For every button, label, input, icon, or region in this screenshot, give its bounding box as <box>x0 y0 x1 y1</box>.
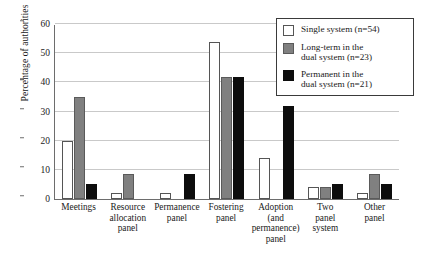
bar-chart: Percentage of authorities 0102030405060 … <box>0 0 422 262</box>
legend-item: Long-term in thedual system (n=23) <box>283 42 408 63</box>
bar-longterm <box>221 77 232 200</box>
x-axis-tick-label: Resourceallocationpanel <box>103 202 152 244</box>
y-axis-tick-label: 30 <box>24 108 50 118</box>
x-axis-tick-label: Otherpanel <box>350 202 399 244</box>
bar-permanent <box>381 184 392 199</box>
bar-single <box>308 187 319 199</box>
legend-label: Long-term in thedual system (n=23) <box>301 42 372 63</box>
bar-longterm <box>74 97 85 199</box>
x-axis-tick-label: Twopanelsystem <box>301 202 350 244</box>
bar-permanent <box>86 184 97 199</box>
bar-single <box>357 193 368 199</box>
y-axis-tick-mark <box>20 49 24 50</box>
y-axis-tick-mark <box>20 108 24 109</box>
bar-permanent <box>184 174 195 199</box>
legend: Single system (n=54)Long-term in thedual… <box>276 18 414 96</box>
legend-swatch-longterm <box>283 43 294 54</box>
bar-group <box>104 25 153 199</box>
bar-group <box>153 25 202 199</box>
legend-swatch-permanent <box>283 70 294 81</box>
bar-single <box>209 42 220 200</box>
bar-single <box>62 141 73 199</box>
y-axis-tick-label: 0 <box>24 195 50 205</box>
legend-item: Single system (n=54) <box>283 24 408 36</box>
bar-single <box>259 158 270 199</box>
y-axis-tick-mark <box>20 195 24 196</box>
bar-single <box>111 193 122 199</box>
bar-permanent <box>283 106 294 199</box>
y-axis-tick-label: 50 <box>24 49 50 59</box>
legend-label: Permanent in thedual system (n=21) <box>301 69 372 90</box>
legend-item: Permanent in thedual system (n=21) <box>283 69 408 90</box>
y-axis-tick-label: 60 <box>24 20 50 30</box>
x-axis-tick-label: Adoption (andpermanence)panel <box>251 202 301 244</box>
y-axis-tick-label: 20 <box>24 137 50 147</box>
bar-group <box>55 25 104 199</box>
bar-single <box>160 193 171 199</box>
bar-longterm <box>369 174 380 199</box>
x-axis-tick-labels: MeetingsResourceallocationpanelPermanenc… <box>54 202 399 244</box>
y-axis-tick-mark <box>20 79 24 80</box>
bar-longterm <box>123 174 134 199</box>
y-axis-tick-mark <box>20 20 24 21</box>
bar-permanent <box>332 184 343 199</box>
y-axis-tick-label: 40 <box>24 79 50 89</box>
y-axis-tick-mark <box>20 166 24 167</box>
bar-permanent <box>233 77 244 200</box>
legend-swatch-single <box>283 25 294 36</box>
bar-group <box>202 25 251 199</box>
x-axis-tick-label: Fosteringpanel <box>202 202 251 244</box>
bar-longterm <box>320 187 331 199</box>
x-axis-tick-label: Permanencepanel <box>152 202 201 244</box>
y-axis-tick-mark <box>20 137 24 138</box>
y-axis-tick-label: 10 <box>24 166 50 176</box>
x-axis-tick-label: Meetings <box>54 202 103 244</box>
legend-label: Single system (n=54) <box>301 24 380 34</box>
